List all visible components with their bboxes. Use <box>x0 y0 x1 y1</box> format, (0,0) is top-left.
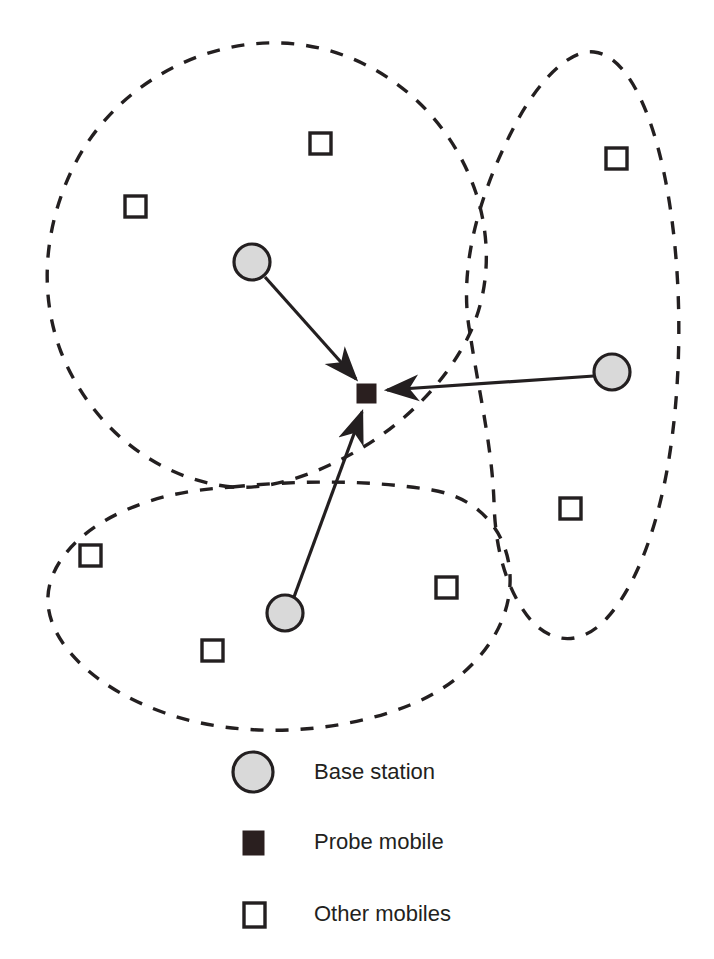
legend-label-base-station: Base station <box>314 759 435 784</box>
legend-label-other-mobiles: Other mobiles <box>314 901 451 926</box>
link-lower-left-to-probe <box>294 412 362 597</box>
link-right-to-probe <box>387 376 594 390</box>
other-mobile <box>606 148 627 169</box>
probe-mobile <box>357 384 376 403</box>
other-mobiles-group <box>80 133 627 661</box>
other-mobile <box>310 133 331 154</box>
legend-item-probe-mobile: Probe mobile <box>243 829 444 855</box>
legend-label-probe-mobile: Probe mobile <box>314 829 444 854</box>
base-stations-group <box>234 244 630 631</box>
link-upper-left-to-probe <box>265 277 356 379</box>
legend-item-base-station: Base station <box>233 752 435 792</box>
other-mobile <box>80 545 101 566</box>
probe-links <box>265 277 594 597</box>
figure-root: Base station Probe mobile Other mobiles <box>0 0 714 959</box>
base-station-lower-left <box>267 595 303 631</box>
legend-other-mobiles-icon <box>244 903 265 927</box>
network-diagram: Base station Probe mobile Other mobiles <box>0 0 714 959</box>
legend-probe-mobile-icon <box>243 831 264 855</box>
other-mobile <box>202 640 223 661</box>
legend: Base station Probe mobile Other mobiles <box>233 752 451 927</box>
cell-boundary-right <box>467 52 679 639</box>
base-station-right <box>594 354 630 390</box>
base-station-upper-left <box>234 244 270 280</box>
legend-base-station-icon <box>233 752 273 792</box>
other-mobile <box>125 196 146 217</box>
other-mobile <box>560 498 581 519</box>
legend-item-other-mobiles: Other mobiles <box>244 901 451 927</box>
other-mobile <box>436 577 457 598</box>
